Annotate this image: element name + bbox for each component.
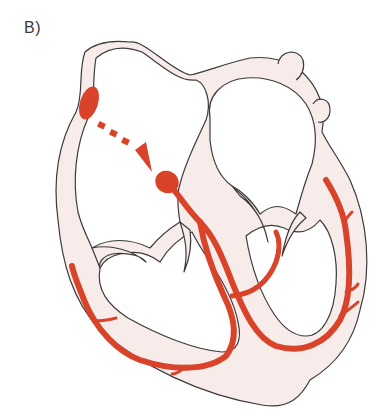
- heart-diagram: [0, 0, 389, 418]
